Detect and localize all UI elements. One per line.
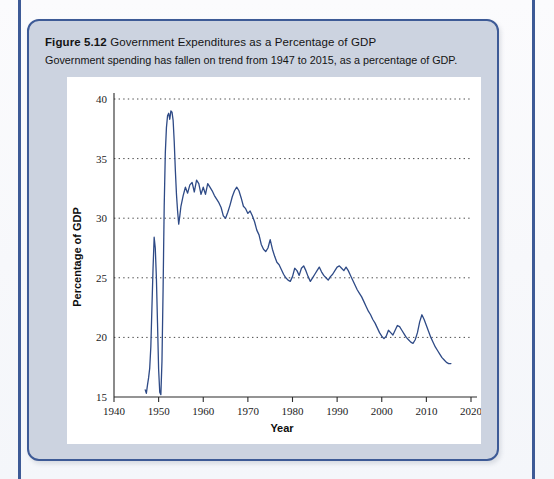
chart-axes: [114, 93, 477, 397]
svg-text:2000: 2000: [371, 405, 394, 417]
figure-card: Figure 5.12 Government Expenditures as a…: [27, 19, 499, 461]
svg-text:35: 35: [96, 153, 108, 165]
svg-text:1990: 1990: [326, 405, 349, 417]
svg-text:15: 15: [96, 391, 108, 403]
svg-text:1940: 1940: [103, 405, 126, 417]
page-rule-right: [532, 0, 535, 479]
figure-label: Figure 5.12: [45, 36, 107, 48]
svg-text:40: 40: [96, 93, 108, 105]
svg-text:30: 30: [96, 212, 108, 224]
chart-y-axis-title: Percentage of GDP: [71, 207, 83, 307]
svg-text:1960: 1960: [192, 405, 215, 417]
svg-text:1950: 1950: [148, 405, 171, 417]
chart-ticks: [114, 397, 471, 402]
chart-plot-panel: 152025303540 194019501960197019801990200…: [67, 77, 481, 444]
page-rule-left: [18, 0, 21, 479]
chart-series-line: [145, 111, 451, 395]
svg-text:1970: 1970: [237, 405, 260, 417]
line-chart: 152025303540 194019501960197019801990200…: [67, 77, 481, 444]
figure-subtitle: Government spending has fallen on trend …: [45, 53, 489, 67]
svg-text:2010: 2010: [415, 405, 438, 417]
figure-title: Figure 5.12 Government Expenditures as a…: [45, 35, 485, 49]
svg-text:1980: 1980: [282, 405, 305, 417]
svg-text:25: 25: [96, 272, 108, 284]
figure-title-text: Government Expenditures as a Percentage …: [110, 36, 376, 48]
chart-gridlines: [114, 99, 471, 337]
svg-text:2020: 2020: [460, 405, 481, 417]
svg-text:20: 20: [96, 331, 108, 343]
chart-y-tick-labels: 152025303540: [96, 93, 108, 403]
chart-x-tick-labels: 194019501960197019801990200020102020: [103, 405, 481, 417]
chart-x-axis-title: Year: [270, 422, 294, 434]
